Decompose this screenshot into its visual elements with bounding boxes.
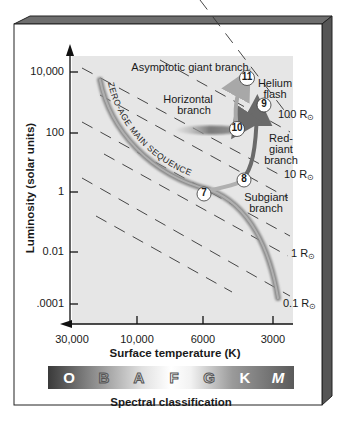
spectral-class-B: B (89, 366, 119, 389)
stage-10: 10 (228, 122, 246, 133)
stage-7: 7 (197, 187, 211, 198)
spectral-class-G: G (194, 366, 224, 389)
stage-11: 11 (238, 71, 256, 82)
spectral-class-M: M (263, 366, 293, 389)
spectral-bar: O B A F G K M (48, 366, 294, 389)
spectral-class-F: F (159, 366, 189, 389)
stage-9: 9 (257, 98, 271, 109)
stage-8: 8 (237, 173, 251, 184)
hr-diagram-figure: ZERO-AGE MAIN SEQUENCE Luminosity (solar… (0, 0, 344, 430)
spectral-classification-title: Spectral classification (96, 396, 246, 408)
spectral-class-K: K (230, 366, 260, 389)
spectral-class-O: O (54, 366, 84, 389)
spectral-class-A: A (124, 366, 154, 389)
